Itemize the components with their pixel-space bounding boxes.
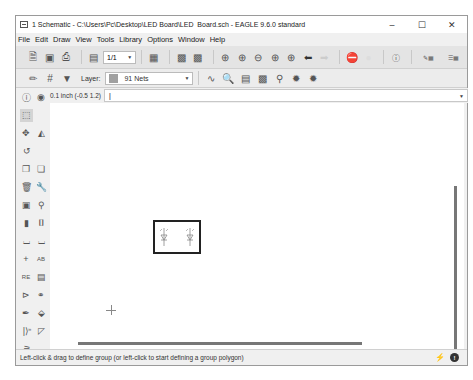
menu-tools[interactable]: Tools <box>97 35 115 44</box>
zoom-select-icon[interactable]: ⊕ <box>268 50 282 64</box>
coordinate-display: 0.1 inch (-0.5 1.2) <box>50 92 104 99</box>
menu-window[interactable]: Window <box>178 35 205 44</box>
separator <box>169 50 170 64</box>
eye-icon[interactable]: ◉ <box>35 91 47 104</box>
chevron-down-icon: ▼ <box>127 54 132 60</box>
copy-icon[interactable]: ❐ <box>20 163 32 176</box>
delete-icon[interactable]: 🗑 <box>20 181 32 194</box>
stop-icon[interactable]: ⛔ <box>345 50 359 64</box>
design-link-icon[interactable]: ✎▦ <box>417 50 440 64</box>
net-icon[interactable]: ⌴ <box>35 235 47 248</box>
separator <box>383 50 384 64</box>
settings-gear-icon-2[interactable]: ✹ <box>306 71 320 85</box>
wire-icon[interactable]: ⌴ <box>20 235 32 248</box>
menu-edit[interactable]: Edit <box>35 35 48 44</box>
mirror-icon[interactable]: ◭ <box>35 127 47 140</box>
rotate-icon[interactable]: ↺ <box>20 145 33 158</box>
pin-icon[interactable]: ⚲ <box>272 71 286 85</box>
grid-icon[interactable]: # <box>43 71 57 85</box>
smash-icon[interactable]: ⬙ <box>35 307 47 320</box>
menu-draw[interactable]: Draw <box>53 35 71 44</box>
menu-options[interactable]: Options <box>147 35 173 44</box>
wire-style-icon[interactable]: ∿ <box>204 71 218 85</box>
origin-cross-icon <box>106 305 116 315</box>
parameter-toolbar: ✏ # ▼ Layer: 91 Nets ▼ ∿ 🔍 ▤ ▩ ⚲ ✹ ✹ <box>16 69 467 88</box>
layer-settings-icon[interactable]: ▤ <box>238 71 252 85</box>
zoom-redraw-icon[interactable]: ⊕ <box>285 50 299 64</box>
undo-icon[interactable]: ⬅ <box>301 50 315 64</box>
save-icon[interactable]: ▣ <box>43 50 57 64</box>
zoom-in-icon[interactable]: ⊕ <box>235 50 249 64</box>
horizontal-scrollbar[interactable] <box>78 342 362 345</box>
eagle-window: 1 Schematic - C:\Users\Pc\Desktop\LED Bo… <box>15 15 468 366</box>
print-icon[interactable]: ⎙ <box>59 50 73 64</box>
eraser-icon[interactable]: ✏ <box>26 71 40 85</box>
schematic-canvas[interactable] <box>50 103 464 350</box>
led-symbol-1[interactable] <box>159 228 169 246</box>
change-icon[interactable]: ⚲ <box>35 199 47 212</box>
name-icon[interactable]: ▤ <box>35 271 47 284</box>
title-bar: 1 Schematic - C:\Users\Pc\Desktop\LED Bo… <box>16 16 467 33</box>
cam-icon[interactable]: ▦ <box>147 50 161 64</box>
minimize-button[interactable]: – <box>377 20 407 30</box>
split-icon[interactable]: ▮ <box>20 217 32 230</box>
separator <box>411 50 412 64</box>
menu-library[interactable]: Library <box>119 35 142 44</box>
move-icon[interactable]: ✥ <box>20 127 32 140</box>
label-icon[interactable]: AB <box>35 253 47 266</box>
filter-icon[interactable]: ▼ <box>60 71 74 85</box>
separator <box>198 71 199 85</box>
pcb-quote-icon[interactable]: ☰▦ <box>443 50 464 64</box>
separator <box>141 50 142 64</box>
group-icon[interactable]: ⬚ <box>20 109 33 122</box>
redo-icon[interactable]: ➡ <box>318 50 332 64</box>
layer-select-value: 91 Nets <box>124 75 148 82</box>
info-icon[interactable]: ⓘ <box>20 91 32 104</box>
vertical-scrollbar[interactable] <box>454 186 457 354</box>
invoke-icon[interactable]: ⊳ <box>20 289 32 302</box>
lightning-icon: ⚡ <box>435 353 445 362</box>
chevron-down-icon: ▼ <box>459 93 464 99</box>
wrench-icon[interactable]: 🔧 <box>35 181 47 194</box>
settings-gear-icon[interactable]: ✹ <box>289 71 303 85</box>
command-input-value: | <box>109 92 111 99</box>
stop-status-icon[interactable]: ! <box>450 353 459 362</box>
expand-toolbar-icon[interactable]: » <box>28 326 31 332</box>
paste-icon[interactable]: ❏ <box>35 163 47 176</box>
sheet-select-value: 1/1 <box>107 54 117 61</box>
separator <box>339 50 340 64</box>
maximize-button[interactable]: ☐ <box>407 20 437 30</box>
chevron-down-icon: ▼ <box>185 75 190 81</box>
main-toolbar: 🗎 ▣ ⎙ ▤ 1/1 ▼ ▦ ▩ ▩ ⊕ ⊕ ⊖ ⊕ ⊕ ⬅ ➡ ⛔ ● ⓘ … <box>16 46 467 69</box>
sheet-icon[interactable]: ▤ <box>87 50 101 64</box>
open-icon[interactable]: 🗎 <box>26 50 40 64</box>
close-button[interactable]: ✕ <box>437 20 467 30</box>
menu-file[interactable]: File <box>18 35 30 44</box>
go-icon[interactable]: ● <box>362 50 376 64</box>
menu-help[interactable]: Help <box>210 35 225 44</box>
attribute-icon[interactable]: ◸ <box>35 325 47 338</box>
junction-icon[interactable]: + <box>20 253 32 266</box>
menu-view[interactable]: View <box>76 35 92 44</box>
menu-bar: File Edit Draw View Tools Library Option… <box>16 33 467 46</box>
brd-icon[interactable]: ▩ <box>191 50 205 64</box>
search-icon[interactable]: 🔍 <box>221 71 235 85</box>
layer-display-icon[interactable]: ▩ <box>255 71 269 85</box>
layer-label: Layer: <box>81 75 100 82</box>
help-icon[interactable]: ⓘ <box>389 50 403 64</box>
led-symbol-2[interactable] <box>185 228 195 246</box>
sheet-select[interactable]: 1/1 ▼ <box>103 51 136 64</box>
sch-icon[interactable]: ▩ <box>175 50 189 64</box>
layer-select[interactable]: 91 Nets ▼ <box>105 72 193 85</box>
gate-swap-icon[interactable]: ⌷ <box>35 217 47 230</box>
value-icon[interactable]: ⚭ <box>35 289 47 302</box>
pinswap-icon[interactable]: ✒ <box>20 307 32 320</box>
app-icon <box>20 21 28 28</box>
zoom-fit-icon[interactable]: ⊕ <box>219 50 233 64</box>
zoom-out-icon[interactable]: ⊖ <box>252 50 266 64</box>
add-icon[interactable]: ▣ <box>20 199 32 212</box>
command-input[interactable]: | ▼ <box>104 89 468 102</box>
window-title: 1 Schematic - C:\Users\Pc\Desktop\LED Bo… <box>32 21 377 28</box>
status-message: Left-click & drag to define group (or le… <box>20 354 435 361</box>
erc-icon[interactable]: RE <box>20 271 32 284</box>
